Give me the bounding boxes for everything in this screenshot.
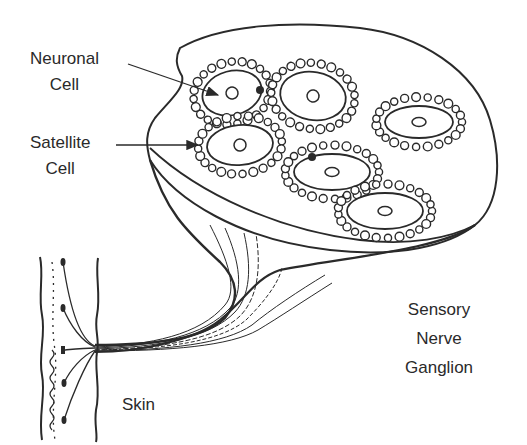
nerve-ending-terminals: [61, 258, 67, 424]
satellite-cell: [213, 117, 222, 126]
satellite-cell: [239, 170, 247, 178]
satellite-cell: [407, 185, 414, 192]
satellite-cell: [319, 195, 327, 203]
satellite-cell: [254, 113, 264, 123]
label-neuronal-cell: Neuronal Cell: [30, 46, 99, 98]
label-sensory-nerve-ganglion: Sensory Nerve Ganglion: [405, 295, 473, 382]
satellite-cell: [279, 67, 287, 75]
satellite-cell: [444, 99, 453, 108]
satellite-cell: [406, 230, 414, 238]
neuron-nucleus: [412, 118, 426, 127]
neuron-nucleus: [378, 207, 392, 216]
satellite-cell: [259, 164, 268, 173]
neuron-cells-layer: [181, 48, 465, 242]
satellite-cell: [373, 181, 380, 188]
satellite-cell: [244, 112, 253, 121]
satellite-cell: [295, 122, 304, 131]
satellite-cell: [320, 142, 327, 149]
satellite-cell: [381, 102, 390, 111]
neuronal-cell: [281, 141, 382, 202]
satellite-cell: [286, 62, 295, 71]
satellite-cell: [326, 123, 335, 132]
satellite-cell: [326, 62, 336, 72]
satellite-cell: [267, 89, 275, 97]
satellite-cell: [222, 113, 232, 123]
satellite-cell: [227, 57, 236, 66]
satellite-cell: [194, 145, 202, 153]
satellite-cell: [416, 226, 423, 233]
satellite-cell: [216, 58, 227, 69]
satellite-cell: [275, 129, 285, 139]
satellite-cell: [350, 99, 358, 107]
satellite-cell: [413, 143, 420, 150]
label-ganglion-line1: Sensory: [405, 295, 473, 324]
satellite-cell: [298, 147, 306, 155]
satellite-cell: [278, 112, 286, 120]
label-skin-text: Skin: [122, 392, 155, 418]
neuronal-cell: [334, 180, 435, 241]
satellite-cell: [335, 119, 343, 127]
satellite-cell: [264, 118, 272, 126]
label-ganglion-line3: Ganglion: [405, 353, 473, 382]
satellite-cell: [456, 111, 464, 119]
satellite-cell: [445, 137, 452, 144]
satellite-cell: [401, 94, 409, 102]
neuronal-cell-arrow: [128, 64, 218, 95]
satellite-cell: [384, 234, 391, 241]
dark-satellite-nucleus: [308, 153, 316, 161]
satellite-cell: [361, 231, 370, 240]
satellite-cell: [422, 220, 431, 229]
satellite-cell: [227, 170, 236, 179]
satellite-cell: [382, 134, 389, 141]
satellite-cell: [267, 159, 275, 167]
label-satellite-cell-line1: Satellite: [30, 130, 90, 156]
satellite-cell: [427, 201, 434, 208]
skin-wavy-pattern: [50, 350, 54, 430]
satellite-cell: [343, 192, 350, 199]
satellite-cell: [372, 234, 380, 242]
satellite-cell: [315, 124, 325, 134]
neuron-nucleus: [233, 138, 246, 151]
satellite-cell: [267, 96, 277, 106]
satellite-cell: [391, 98, 398, 105]
satellite-cell: [308, 192, 317, 201]
satellite-cell: [295, 58, 305, 68]
label-skin: Skin: [122, 392, 155, 418]
satellite-cell: [451, 131, 460, 140]
satellite-cell: [390, 138, 399, 147]
satellite-cell: [207, 63, 217, 73]
neuron-nucleus: [325, 168, 339, 177]
satellite-cell: [317, 59, 326, 68]
satellite-cell: [189, 95, 198, 104]
satellite-cell: [249, 167, 259, 177]
satellite-cell: [205, 123, 213, 131]
satellite-cell: [342, 142, 351, 151]
satellite-cell: [331, 141, 339, 149]
satellite-cell: [361, 182, 370, 191]
satellite-cell: [395, 181, 404, 190]
satellite-cell: [351, 228, 358, 235]
satellite-cell: [290, 153, 297, 160]
satellite-cell: [306, 125, 314, 133]
satellite-cell: [350, 91, 358, 99]
sensory-nerve-endings: [63, 262, 95, 420]
label-satellite-cell: Satellite Cell: [30, 130, 90, 182]
satellite-cell: [384, 180, 392, 188]
satellite-cell: [307, 59, 315, 67]
satellite-cell: [246, 59, 257, 70]
satellite-cell: [354, 146, 361, 153]
satellite-cell: [424, 94, 431, 101]
satellite-cell: [401, 142, 409, 150]
satellite-cell: [203, 115, 212, 124]
label-neuronal-cell-line2: Cell: [30, 72, 99, 98]
satellite-cell: [298, 189, 305, 196]
satellite-cell: [308, 143, 317, 152]
satellite-cell: [347, 82, 357, 92]
satellite-cell: [259, 104, 268, 113]
satellite-cell: [199, 70, 208, 79]
satellite-cell: [435, 96, 443, 104]
label-ganglion-line2: Nerve: [405, 324, 473, 353]
satellite-cell: [435, 140, 443, 148]
nerve-stalk-upper-edge: [95, 160, 235, 345]
satellite-cell: [423, 142, 432, 151]
